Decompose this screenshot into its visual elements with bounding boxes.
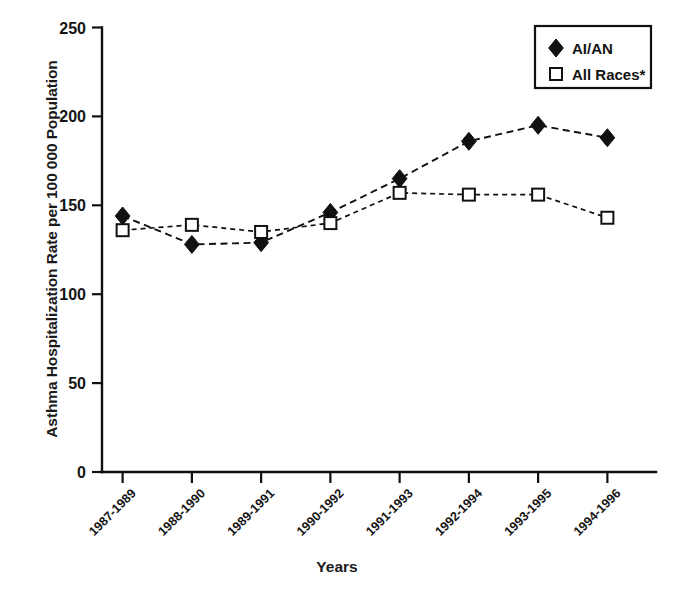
legend: AI/ANAll Races* [535, 26, 651, 88]
data-point-aian [184, 235, 199, 253]
y-tick-label: 100 [59, 286, 86, 303]
data-point-aian [600, 129, 615, 147]
chart-canvas: 050100150200250 1987-19891988-19901989-1… [0, 0, 674, 590]
x-tick-label: 1994-1996 [571, 486, 623, 538]
data-point-aian [461, 132, 476, 150]
data-point-aian [392, 170, 407, 188]
y-tick-group: 050100150200250 [59, 20, 102, 482]
x-tick-label: 1991-1993 [363, 486, 415, 538]
x-tick-label: 1990-1992 [294, 486, 346, 538]
data-point-all-races [601, 212, 613, 224]
data-point-all-races [255, 226, 267, 238]
data-point-aian [531, 116, 546, 134]
series-layer [115, 116, 615, 253]
data-point-all-races [186, 219, 198, 231]
data-point-all-races [324, 217, 336, 229]
data-point-all-races [532, 189, 544, 201]
legend-marker-all-races [550, 68, 562, 80]
x-tick-group: 1987-19891988-19901989-19911990-19921991… [86, 472, 623, 539]
y-tick-label: 50 [68, 375, 86, 392]
y-tick-label: 250 [59, 20, 86, 37]
y-tick-label: 150 [59, 197, 86, 214]
y-axis: 050100150200250 [59, 20, 102, 482]
y-tick-label: 0 [77, 464, 86, 481]
data-point-all-races [117, 224, 129, 236]
y-tick-label: 200 [59, 108, 86, 125]
data-point-aian [115, 207, 130, 225]
legend-label: All Races* [572, 66, 646, 83]
legend-label: AI/AN [572, 40, 613, 57]
data-point-all-races [394, 187, 406, 199]
x-tick-label: 1989-1991 [225, 486, 277, 538]
x-tick-label: 1987-1989 [86, 486, 138, 538]
x-tick-label: 1992-1994 [433, 486, 485, 538]
chart-figure: Asthma Hospitalization Rate per 100 000 … [0, 0, 674, 590]
x-axis: 1987-19891988-19901989-19911990-19921991… [86, 472, 656, 539]
data-point-all-races [463, 189, 475, 201]
x-tick-label: 1993-1995 [502, 486, 554, 538]
x-tick-label: 1988-1990 [156, 486, 208, 538]
